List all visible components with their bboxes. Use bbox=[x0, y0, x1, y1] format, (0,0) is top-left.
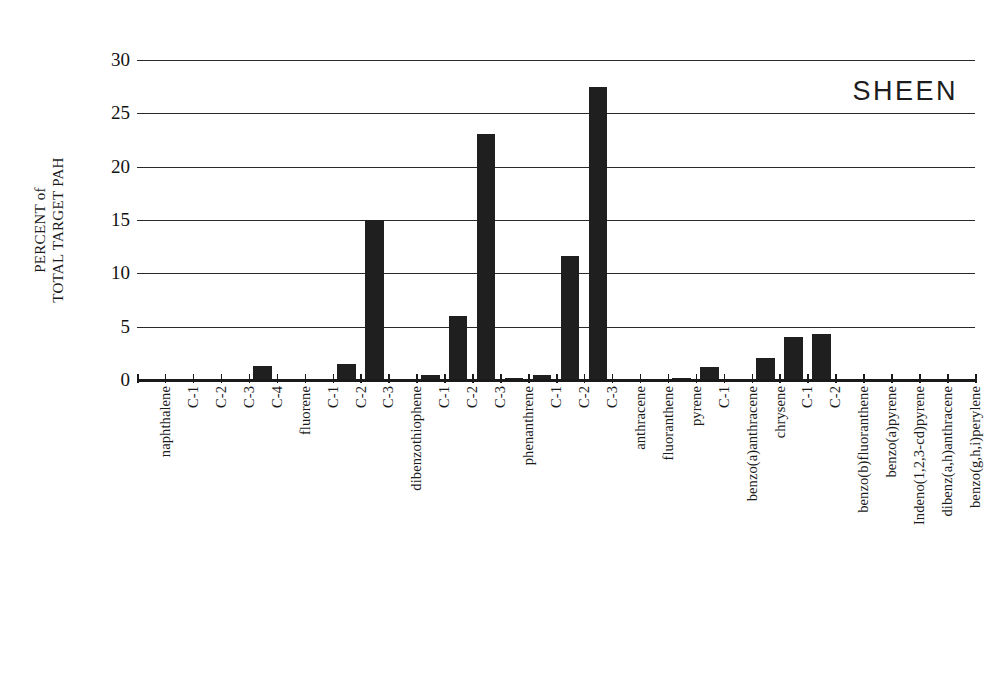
bar bbox=[365, 220, 383, 380]
x-tick bbox=[919, 374, 921, 383]
x-label: C-3 bbox=[604, 386, 621, 408]
y-axis-title-line-1: PERCENT of bbox=[32, 157, 50, 302]
x-label: C-1 bbox=[716, 386, 733, 408]
x-label: chrysene bbox=[772, 386, 789, 438]
bar bbox=[449, 316, 467, 380]
x-label: C-2 bbox=[576, 386, 593, 408]
x-tick bbox=[388, 374, 390, 383]
x-label: C-1 bbox=[799, 386, 816, 408]
x-tick bbox=[779, 374, 781, 383]
x-tick bbox=[249, 374, 251, 383]
x-label: phenanthrene bbox=[520, 386, 537, 465]
x-label: C-1 bbox=[436, 386, 453, 408]
x-tick bbox=[305, 374, 307, 383]
bar bbox=[589, 87, 607, 380]
x-label: fluoranthene bbox=[660, 386, 677, 460]
x-tick bbox=[724, 374, 726, 383]
x-label: anthracene bbox=[632, 386, 649, 450]
x-label: C-3 bbox=[380, 386, 397, 408]
y-tick-label-30: 30 bbox=[86, 49, 130, 71]
x-label: benzo(g,h,i)perylene bbox=[967, 386, 984, 508]
y-tick-label-25: 25 bbox=[86, 102, 130, 124]
x-tick bbox=[360, 374, 362, 383]
x-label: C-3 bbox=[241, 386, 258, 408]
bar bbox=[477, 134, 495, 380]
x-tick bbox=[165, 374, 167, 383]
x-label: dibenz(a,h)anthracene bbox=[939, 386, 956, 517]
x-tick bbox=[444, 374, 446, 383]
x-label: benzo(a)anthracene bbox=[744, 386, 761, 501]
x-label: benzo(b)fluoranthene bbox=[855, 386, 872, 513]
x-tick bbox=[416, 374, 418, 383]
x-tick bbox=[947, 374, 949, 383]
x-label: benzo(a)pyrene bbox=[883, 386, 900, 478]
x-tick bbox=[221, 374, 223, 383]
x-label: C-2 bbox=[464, 386, 481, 408]
x-tick bbox=[472, 374, 474, 383]
x-label: C-2 bbox=[827, 386, 844, 408]
x-tick bbox=[584, 374, 586, 383]
x-tick bbox=[612, 374, 614, 383]
y-tick-label-5: 5 bbox=[86, 316, 130, 338]
x-tick bbox=[500, 374, 502, 383]
x-label: C-2 bbox=[353, 386, 370, 408]
x-label: C-1 bbox=[185, 386, 202, 408]
x-label: naphthalene bbox=[157, 386, 174, 457]
x-tick bbox=[975, 374, 977, 383]
x-label: C-1 bbox=[325, 386, 342, 408]
x-tick bbox=[556, 374, 558, 383]
y-tick-label-0: 0 bbox=[86, 369, 130, 391]
x-tick bbox=[835, 374, 837, 383]
x-tick bbox=[528, 374, 530, 383]
x-label: Indeno(1,2,3-cd)pyrene bbox=[911, 386, 928, 525]
x-tick bbox=[696, 374, 698, 383]
y-axis-tick-labels: 302520151050 bbox=[82, 0, 130, 676]
x-tick bbox=[863, 374, 865, 383]
x-tick bbox=[668, 374, 670, 383]
bar bbox=[561, 256, 579, 380]
y-tick-label-15: 15 bbox=[86, 209, 130, 231]
pah-distribution-bar-chart: PERCENT of TOTAL TARGET PAH 302520151050… bbox=[0, 0, 986, 676]
y-axis-title-line-2: TOTAL TARGET PAH bbox=[50, 157, 68, 302]
y-tick-label-10: 10 bbox=[86, 262, 130, 284]
x-label: C-2 bbox=[213, 386, 230, 408]
x-tick bbox=[137, 374, 139, 383]
x-tick bbox=[193, 374, 195, 383]
plot-area bbox=[137, 60, 975, 380]
x-tick bbox=[891, 374, 893, 383]
x-axis-category-labels: naphthaleneC-1C-2C-3C-4fluoreneC-1C-2C-3… bbox=[137, 386, 975, 666]
x-label: dibenzothiophene bbox=[408, 386, 425, 491]
x-label: C-3 bbox=[492, 386, 509, 408]
x-axis-ticks bbox=[137, 374, 975, 383]
x-tick bbox=[807, 374, 809, 383]
x-label: C-1 bbox=[548, 386, 565, 408]
bar-series bbox=[137, 60, 975, 380]
x-tick bbox=[640, 374, 642, 383]
x-label: C-4 bbox=[269, 386, 286, 408]
x-tick bbox=[333, 374, 335, 383]
x-tick bbox=[752, 374, 754, 383]
x-label: pyrene bbox=[688, 386, 705, 426]
chart-title: SHEEN bbox=[852, 76, 958, 107]
x-tick bbox=[277, 374, 279, 383]
y-tick-label-20: 20 bbox=[86, 156, 130, 178]
x-label: fluorene bbox=[297, 386, 314, 435]
